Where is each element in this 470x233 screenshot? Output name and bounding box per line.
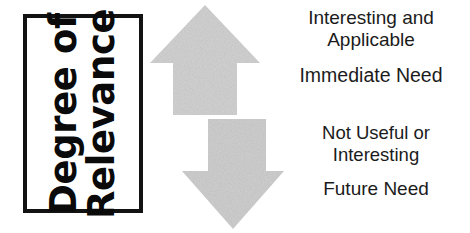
axis-label: Degree of Relevance <box>45 8 120 218</box>
label-block-top: Interesting and Applicable Immediate Nee… <box>276 7 466 86</box>
label-top-primary: Interesting and Applicable <box>276 7 466 51</box>
label-bottom-primary-line-2: Interesting <box>286 144 466 166</box>
axis-label-line-1: Degree of <box>45 8 83 218</box>
label-top-secondary: Immediate Need <box>276 64 466 86</box>
degree-of-relevance-axis-box: Degree of Relevance <box>23 14 143 213</box>
label-bottom-secondary-text: Future Need <box>286 178 466 200</box>
label-block-bottom: Not Useful or Interesting Future Need <box>286 122 466 200</box>
label-bottom-primary-line-1: Not Useful or <box>286 122 466 144</box>
arrow-up-icon <box>148 3 262 117</box>
arrow-down-icon <box>178 118 286 231</box>
label-top-primary-line-1: Interesting and <box>276 7 466 29</box>
axis-label-line-2: Relevance <box>83 8 121 218</box>
label-top-secondary-text: Immediate Need <box>276 64 466 86</box>
label-bottom-secondary: Future Need <box>286 178 466 200</box>
diagram-canvas: Degree of Relevance <box>0 0 470 233</box>
label-top-primary-line-2: Applicable <box>276 29 466 51</box>
label-bottom-primary: Not Useful or Interesting <box>286 122 466 166</box>
